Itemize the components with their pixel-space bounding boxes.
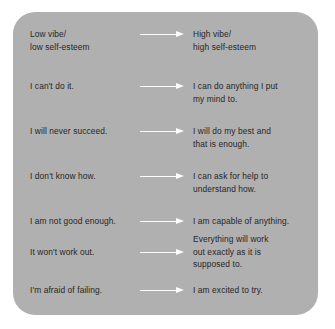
negative-statement-line: I don't know how. — [30, 170, 143, 183]
positive-statement-line: understand how. — [193, 183, 311, 196]
positive-statement-line: I am excited to try. — [193, 284, 311, 297]
positive-statement-line: Everything will work — [193, 233, 311, 246]
positive-statement-line: supposed to. — [193, 258, 311, 271]
negative-statement-line: I can't do it. — [30, 80, 143, 93]
positive-statement: I am capable of anything. — [193, 215, 311, 228]
right-arrow-icon — [140, 218, 186, 225]
arrow-head — [176, 173, 184, 179]
negative-statement-line: I am not good enough. — [30, 215, 143, 228]
positive-statement-line: high self-esteem — [193, 41, 311, 54]
arrow-shaft — [140, 34, 178, 35]
arrow-head — [176, 31, 184, 37]
affirmation-reframe-card: Low vibe/ low self-esteem High vibe/ hig… — [13, 12, 318, 315]
positive-statement: I will do my best and that is enough. — [193, 125, 311, 150]
right-arrow-icon — [140, 83, 186, 90]
arrow-shaft — [140, 290, 178, 291]
arrow-shaft — [140, 252, 178, 253]
positive-statement-line: out exactly as it is — [193, 246, 311, 259]
negative-statement: I can't do it. — [30, 80, 143, 93]
positive-statement: High vibe/ high self-esteem — [193, 28, 311, 53]
arrow-head — [176, 128, 184, 134]
arrow-shaft — [140, 221, 178, 222]
positive-statement-line: I will do my best and — [193, 125, 311, 138]
negative-statement: Low vibe/ low self-esteem — [30, 28, 143, 53]
right-arrow-icon — [140, 173, 186, 180]
negative-statement: I am not good enough. — [30, 215, 143, 228]
arrow-head — [176, 249, 184, 255]
positive-statement-line: I can do anything I put — [193, 80, 311, 93]
positive-statement: I can do anything I put my mind to. — [193, 80, 311, 105]
positive-statement: Everything will work out exactly as it i… — [193, 233, 311, 271]
negative-statement: It won't work out. — [30, 246, 143, 259]
negative-statement-line: I'm afraid of failing. — [30, 284, 143, 297]
negative-statement-line: It won't work out. — [30, 246, 143, 259]
positive-statement-line: High vibe/ — [193, 28, 311, 41]
positive-statement-line: that is enough. — [193, 138, 311, 151]
arrow-shaft — [140, 131, 178, 132]
negative-statement: I don't know how. — [30, 170, 143, 183]
arrow-head — [176, 287, 184, 293]
negative-statement: I will never succeed. — [30, 125, 143, 138]
positive-statement: I can ask for help to understand how. — [193, 170, 311, 195]
right-arrow-icon — [140, 287, 186, 294]
right-arrow-icon — [140, 31, 186, 38]
positive-statement-line: my mind to. — [193, 93, 311, 106]
negative-statement-line: low self-esteem — [30, 41, 143, 54]
arrow-head — [176, 83, 184, 89]
arrow-head — [176, 218, 184, 224]
arrow-shaft — [140, 176, 178, 177]
right-arrow-icon — [140, 128, 186, 135]
positive-statement: I am excited to try. — [193, 284, 311, 297]
right-arrow-icon — [140, 249, 186, 256]
negative-statement: I'm afraid of failing. — [30, 284, 143, 297]
arrow-shaft — [140, 86, 178, 87]
negative-statement-line: Low vibe/ — [30, 28, 143, 41]
negative-statement-line: I will never succeed. — [30, 125, 143, 138]
positive-statement-line: I am capable of anything. — [193, 215, 311, 228]
positive-statement-line: I can ask for help to — [193, 170, 311, 183]
